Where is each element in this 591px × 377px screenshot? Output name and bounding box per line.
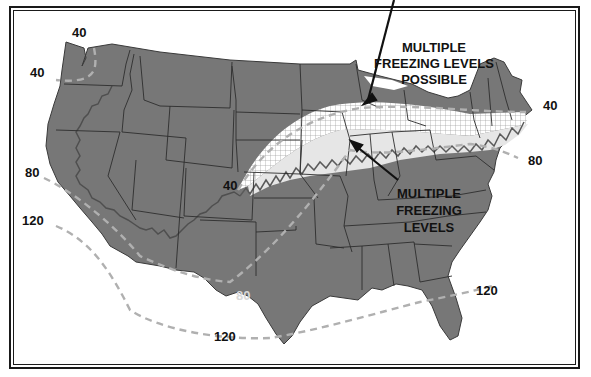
annotation-possible-line1: MULTIPLE	[402, 40, 466, 55]
annotation-multiple-line2: FREEZING	[396, 203, 462, 218]
contour-label-40-nw-top: 40	[72, 25, 86, 40]
contour-label-120-sw-coast: 120	[22, 213, 44, 228]
contour-label-80-texas: 80	[236, 288, 250, 303]
annotation-possible-line3: POSSIBLE	[401, 72, 467, 87]
freezing-level-map: MULTIPLE FREEZING LEVELS POSSIBLE MULTIP…	[0, 0, 591, 377]
contour-label-40-nw-coast: 40	[30, 65, 44, 80]
contour-label-120-gulf: 120	[214, 329, 236, 344]
annotation-multiple-line1: MULTIPLE	[397, 186, 461, 201]
contour-label-80-west-coast: 80	[25, 165, 39, 180]
contour-label-80-east-coast: 80	[528, 153, 542, 168]
contour-label-40-northeast: 40	[543, 98, 557, 113]
annotation-multiple-line3: LEVELS	[404, 220, 455, 235]
annotation-possible-line2: FREEZING LEVELS	[374, 56, 494, 71]
contour-label-120-atlantic: 120	[476, 283, 498, 298]
contour-label-40-colorado: 40	[223, 178, 237, 193]
annotation-multiple: MULTIPLE FREEZING LEVELS	[396, 186, 462, 235]
